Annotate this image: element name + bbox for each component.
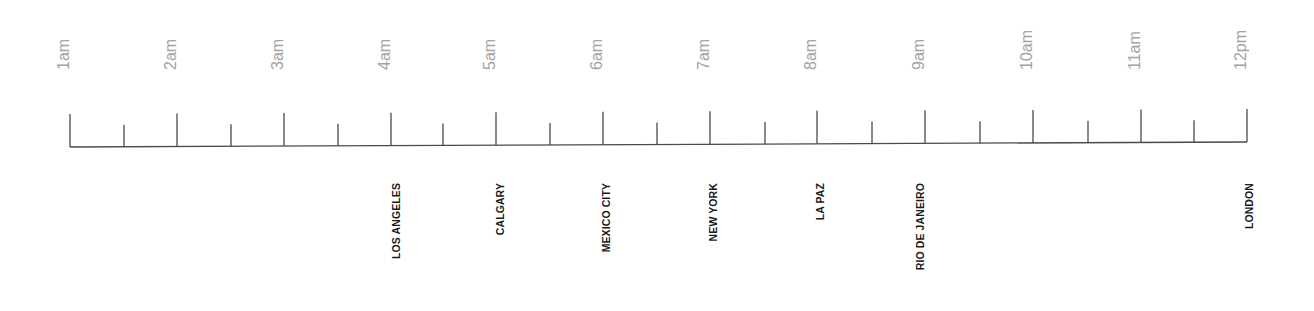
city-label-text: NEW YORK	[708, 183, 719, 241]
city-label-text: MEXICO CITY	[601, 183, 612, 252]
hour-label-text: 4am	[377, 39, 393, 70]
timezone-timeline-diagram: 1am 2am 3am 4am 5am 6am 7am 8am 9am 10am…	[0, 0, 1314, 311]
hour-label-text: 5am	[482, 39, 498, 70]
timeline-axis	[0, 0, 1314, 311]
city-label-text: RIO DE JANEIRO	[915, 183, 926, 270]
city-label-text: LA PAZ	[815, 183, 826, 220]
hour-label-text: 3am	[270, 39, 286, 70]
hour-label-text: 7am	[696, 39, 712, 70]
hour-label-text: 12pm	[1233, 30, 1249, 70]
hour-label-text: 9am	[911, 39, 927, 70]
hour-label-text: 8am	[803, 39, 819, 70]
city-label-text: CALGARY	[495, 183, 506, 235]
hour-label-text: 1am	[56, 39, 72, 70]
hour-label-text: 11am	[1127, 31, 1143, 70]
hour-label-text: 10am	[1019, 30, 1035, 70]
timeline-baseline	[70, 142, 1247, 147]
hour-ticks	[70, 109, 1247, 147]
city-label-text: LONDON	[1244, 183, 1255, 229]
city-label-text: LOS ANGELES	[391, 183, 402, 259]
hour-label-text: 2am	[163, 39, 179, 70]
hour-label-text: 6am	[589, 39, 605, 70]
